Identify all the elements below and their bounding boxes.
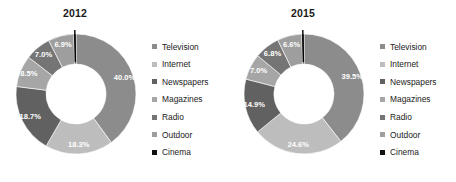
donut-value-label-newspapers: 14.9%: [243, 100, 265, 109]
donut-value-label-radio: 6.8%: [264, 49, 282, 58]
legend-item-internet[interactable]: Internet: [380, 56, 456, 74]
legend-swatch-magazines: [152, 97, 157, 102]
figure-root: 2012 40.0%18.3%18.7%8.5%7.0%6.9%0.6% Tel…: [0, 0, 456, 182]
donut-svg-2015: 39.5%24.6%14.9%7.0%6.8%6.6%0.6%: [240, 30, 368, 158]
legend-swatch-radio: [152, 115, 157, 120]
donut-segments-2015: [244, 34, 364, 154]
legend-swatch-cinema: [152, 150, 157, 155]
legend-item-newspapers[interactable]: Newspapers: [380, 73, 456, 91]
donut-chart-2012: 40.0%18.3%18.7%8.5%7.0%6.9%0.6%: [12, 30, 140, 158]
legend-item-newspapers[interactable]: Newspapers: [152, 73, 230, 91]
donut-value-label-television: 39.5%: [341, 72, 363, 81]
donut-value-label-television: 40.0%: [114, 73, 136, 82]
donut-value-label-outdoor: 6.6%: [283, 40, 301, 49]
donut-chart-2015: 39.5%24.6%14.9%7.0%6.8%6.6%0.6%: [240, 30, 368, 158]
legend-label-outdoor: Outdoor: [162, 131, 192, 139]
legend-swatch-newspapers: [380, 79, 385, 84]
legend-item-radio[interactable]: Radio: [152, 108, 230, 126]
donut-value-label-internet: 24.6%: [287, 140, 309, 149]
legend-2012: Television Internet Newspapers Magazines…: [152, 38, 230, 161]
donut-value-label-magazines: 7.0%: [250, 66, 268, 75]
donut-value-label-outdoor: 6.9%: [55, 40, 73, 49]
legend-label-magazines: Magazines: [162, 95, 203, 103]
legend-item-television[interactable]: Television: [380, 38, 456, 56]
legend-label-newspapers: Newspapers: [390, 78, 437, 86]
legend-swatch-outdoor: [380, 132, 385, 137]
legend-item-television[interactable]: Television: [152, 38, 230, 56]
panel-title-2015: 2015: [228, 7, 378, 19]
legend-label-internet: Internet: [390, 60, 418, 68]
legend-item-radio[interactable]: Radio: [380, 108, 456, 126]
legend-label-radio: Radio: [390, 113, 412, 121]
donut-value-label-magazines: 8.5%: [20, 69, 38, 78]
legend-item-cinema[interactable]: Cinema: [380, 144, 456, 162]
legend-item-outdoor[interactable]: Outdoor: [380, 126, 456, 144]
legend-2015: Television Internet Newspapers Magazines…: [380, 38, 456, 161]
legend-label-internet: Internet: [162, 60, 190, 68]
legend-swatch-radio: [380, 115, 385, 120]
donut-callout-line: [303, 30, 304, 62]
legend-item-magazines[interactable]: Magazines: [380, 91, 456, 109]
legend-label-cinema: Cinema: [390, 148, 419, 156]
legend-label-television: Television: [390, 43, 427, 51]
donut-value-label-internet: 18.3%: [68, 140, 90, 149]
legend-label-newspapers: Newspapers: [162, 78, 209, 86]
legend-swatch-magazines: [380, 97, 385, 102]
legend-label-outdoor: Outdoor: [390, 131, 420, 139]
donut-callout-line: [75, 30, 76, 62]
legend-item-outdoor[interactable]: Outdoor: [152, 126, 230, 144]
donut-value-label-newspapers: 18.7%: [20, 112, 42, 121]
chart-panel-2012: 2012 40.0%18.3%18.7%8.5%7.0%6.9%0.6% Tel…: [0, 0, 228, 182]
legend-item-cinema[interactable]: Cinema: [152, 144, 230, 162]
donut-value-label-radio: 7.0%: [35, 50, 53, 59]
legend-label-radio: Radio: [162, 113, 184, 121]
donut-svg-2012: 40.0%18.3%18.7%8.5%7.0%6.9%0.6%: [12, 30, 140, 158]
panel-title-2012: 2012: [0, 7, 150, 19]
legend-swatch-cinema: [380, 150, 385, 155]
legend-swatch-television: [152, 44, 157, 49]
legend-label-cinema: Cinema: [162, 148, 191, 156]
legend-swatch-newspapers: [152, 79, 157, 84]
chart-panel-2015: 2015 39.5%24.6%14.9%7.0%6.8%6.6%0.6% Tel…: [228, 0, 456, 182]
legend-label-magazines: Magazines: [390, 95, 431, 103]
legend-swatch-outdoor: [152, 132, 157, 137]
legend-swatch-internet: [380, 62, 385, 67]
legend-swatch-television: [380, 44, 385, 49]
legend-item-internet[interactable]: Internet: [152, 56, 230, 74]
legend-item-magazines[interactable]: Magazines: [152, 91, 230, 109]
legend-label-television: Television: [162, 43, 199, 51]
legend-swatch-internet: [152, 62, 157, 67]
